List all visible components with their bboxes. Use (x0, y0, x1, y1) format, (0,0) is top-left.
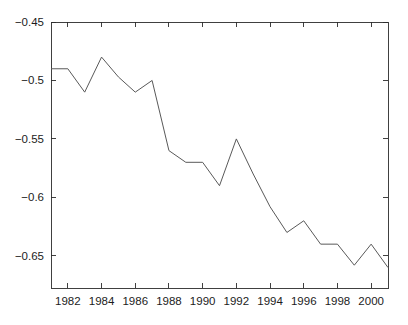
x-tick-label: 1998 (325, 295, 351, 307)
y-tick-label: −0.6 (21, 191, 44, 203)
chart-background (0, 0, 408, 325)
chart-page: −0.45−0.5−0.55−0.6−0.65 1982198419861988… (0, 0, 408, 325)
x-tick-label: 1990 (190, 295, 216, 307)
x-tick-label: 1992 (224, 295, 250, 307)
y-tick-label: −0.65 (15, 250, 44, 262)
y-tick-label: −0.55 (15, 133, 44, 145)
x-tick-label: 1988 (156, 295, 182, 307)
x-tick-label: 1986 (122, 295, 148, 307)
line-chart-figure: −0.45−0.5−0.55−0.6−0.65 1982198419861988… (0, 0, 408, 325)
x-tick-label: 1996 (291, 295, 317, 307)
x-tick-label: 1984 (89, 295, 115, 307)
y-tick-label: −0.45 (15, 16, 44, 28)
chart-canvas: −0.45−0.5−0.55−0.6−0.65 1982198419861988… (0, 0, 408, 325)
x-tick-label: 1982 (55, 295, 81, 307)
y-tick-label: −0.5 (21, 74, 44, 86)
x-tick-label: 1994 (257, 295, 283, 307)
x-tick-label: 2000 (358, 295, 384, 307)
